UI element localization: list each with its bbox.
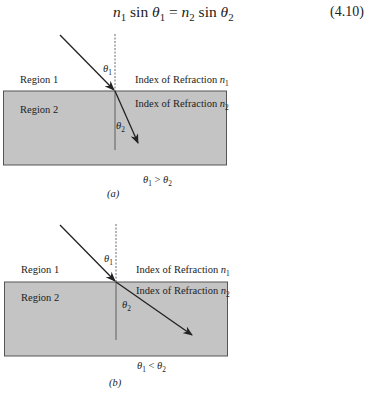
text: Index of Refraction <box>135 98 220 109</box>
sub: 2 <box>225 103 229 112</box>
theta2-label-a: θ2 <box>116 120 125 134</box>
refraction-diagrams <box>0 0 384 395</box>
region2-label-a: Region 2 <box>20 104 58 115</box>
caption-b: (b) <box>109 377 121 388</box>
sub: 2 <box>121 125 125 134</box>
angle-relation-b: θ1 < θ2 <box>137 360 166 374</box>
text: Index of Refraction <box>136 285 221 296</box>
theta2-label-b: θ2 <box>122 299 131 313</box>
angle-relation-a: θ1 > θ2 <box>143 174 172 188</box>
index2-label-b: Index of Refraction n2 <box>136 285 230 299</box>
sub: 1 <box>225 79 229 88</box>
rs: 2 <box>168 179 172 188</box>
theta1-label-b: θ1 <box>104 253 113 267</box>
index1-label-a: Index of Refraction n1 <box>135 74 229 88</box>
sub: 2 <box>226 290 230 299</box>
sub: 1 <box>109 258 113 267</box>
region1-label-a: Region 1 <box>20 74 58 85</box>
op: > <box>152 174 163 185</box>
theta1-label-a: θ1 <box>103 63 112 77</box>
index1-label-b: Index of Refraction n1 <box>136 264 230 278</box>
region1-label-b: Region 1 <box>21 264 59 275</box>
sub: 1 <box>226 269 230 278</box>
sub: 1 <box>108 68 112 77</box>
region2-label-b: Region 2 <box>21 292 59 303</box>
caption-a: (a) <box>107 188 119 199</box>
rs: 2 <box>162 365 166 374</box>
text: Index of Refraction <box>136 264 221 275</box>
text: Index of Refraction <box>135 74 220 85</box>
sub: 2 <box>127 304 131 313</box>
index2-label-a: Index of Refraction n2 <box>135 98 229 112</box>
op: < <box>146 360 157 371</box>
